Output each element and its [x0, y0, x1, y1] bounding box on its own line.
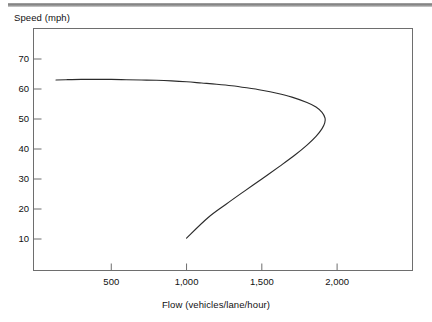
x-tick-label: 1,000	[175, 276, 199, 287]
y-tick-label: 20	[18, 203, 29, 214]
y-tick-label: 40	[18, 143, 29, 154]
y-tick-label: 50	[18, 113, 29, 124]
x-tick-label: 1,500	[250, 276, 274, 287]
speed-flow-figure: Speed (mph) 10203040506070 5001,0001,500…	[0, 0, 432, 322]
plot-frame	[34, 29, 413, 271]
y-tick-label: 10	[18, 233, 29, 244]
x-axis-title: Flow (vehicles/lane/hour)	[0, 299, 432, 310]
y-tick-label: 60	[18, 83, 29, 94]
y-tick-label: 70	[18, 53, 29, 64]
x-tick-label: 2,000	[325, 276, 349, 287]
x-tick-label: 500	[103, 276, 119, 287]
y-tick-label: 30	[18, 173, 29, 184]
x-axis-tick-labels: 5001,0001,5002,000	[103, 276, 349, 287]
plot-area: 10203040506070 5001,0001,5002,000	[0, 0, 432, 322]
y-axis-tick-labels: 10203040506070	[18, 53, 29, 244]
